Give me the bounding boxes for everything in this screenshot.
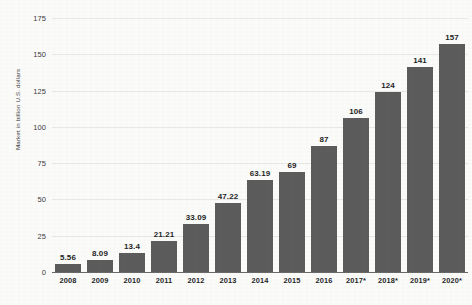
bar [407, 67, 433, 272]
bar-value-label: 124 [381, 81, 395, 90]
x-tick-label: 2011 [156, 276, 172, 285]
bar-group: 21.212011 [151, 18, 177, 272]
bar-value-label: 69 [287, 161, 296, 170]
bar [343, 118, 369, 272]
y-axis-tick-labels: 0255075100125150175 [10, 18, 46, 272]
x-tick-label: 2018* [378, 276, 398, 285]
bar-value-label: 63.19 [250, 169, 271, 178]
plot-area: 5.5620088.09200913.4201021.21201133.0920… [52, 18, 468, 272]
x-tick-label: 2013 [220, 276, 237, 285]
y-tick-label: 175 [16, 14, 46, 23]
y-tick-label: 75 [16, 159, 46, 168]
bar-group: 13.42010 [119, 18, 145, 272]
y-tick-label: 100 [16, 122, 46, 131]
bar-value-label: 21.21 [154, 230, 175, 239]
bar-group: 33.092012 [183, 18, 209, 272]
x-tick-label: 2010 [124, 276, 141, 285]
bar-value-label: 87 [319, 135, 328, 144]
x-tick-label: 2016 [316, 276, 333, 285]
x-tick-label: 2020* [442, 276, 462, 285]
bar-value-label: 106 [349, 107, 363, 116]
bar-group: 1412019* [407, 18, 433, 272]
y-tick-label: 25 [16, 231, 46, 240]
bar-group: 8.092009 [87, 18, 113, 272]
y-tick-label: 150 [16, 50, 46, 59]
bar-value-label: 5.56 [60, 253, 76, 262]
bar-value-label: 33.09 [186, 213, 207, 222]
bar-group: 692015 [279, 18, 305, 272]
y-tick-label: 125 [16, 86, 46, 95]
x-tick-label: 2008 [60, 276, 77, 285]
bar [215, 203, 241, 272]
bar-group: 1062017* [343, 18, 369, 272]
bar [439, 44, 465, 272]
bar-group: 5.562008 [55, 18, 81, 272]
y-tick-label: 0 [16, 268, 46, 277]
x-tick-label: 2019* [410, 276, 430, 285]
x-tick-label: 2017* [346, 276, 366, 285]
bar-group: 872016 [311, 18, 337, 272]
bar [151, 241, 177, 272]
bar [119, 253, 145, 272]
bar [375, 92, 401, 272]
bar-value-label: 8.09 [92, 249, 108, 258]
bar-chart: Market in billion U.S. dollars 025507510… [0, 0, 472, 305]
bar-group: 1242018* [375, 18, 401, 272]
bar-group: 47.222013 [215, 18, 241, 272]
bar [279, 172, 305, 272]
x-tick-label: 2015 [284, 276, 301, 285]
bar [247, 180, 273, 272]
x-tick-label: 2012 [188, 276, 205, 285]
bar-value-label: 47.22 [218, 192, 239, 201]
axis-baseline [52, 272, 468, 273]
bar [87, 260, 113, 272]
bar-group: 63.192014 [247, 18, 273, 272]
bar [183, 224, 209, 272]
bar-value-label: 13.4 [124, 242, 140, 251]
bar-value-label: 141 [413, 56, 427, 65]
x-tick-label: 2009 [92, 276, 109, 285]
bar [311, 146, 337, 272]
bar-group: 1572020* [439, 18, 465, 272]
bar-value-label: 157 [445, 33, 459, 42]
x-tick-label: 2014 [252, 276, 269, 285]
bar [55, 264, 81, 272]
y-tick-label: 50 [16, 195, 46, 204]
